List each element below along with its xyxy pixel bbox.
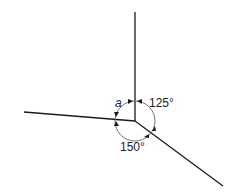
label-angle-150: 150° [120,140,145,154]
arrow-150-right [144,134,149,138]
label-angle-a: a [115,96,122,110]
ray-left [24,112,135,121]
label-angle-125: 125° [149,96,174,110]
ray-lower-right [135,121,223,186]
arrow-a-left [114,112,119,117]
angle-diagram: a 125° 150° [0,0,233,193]
